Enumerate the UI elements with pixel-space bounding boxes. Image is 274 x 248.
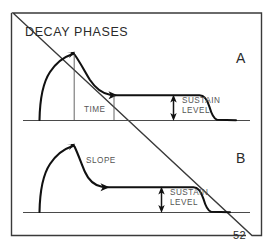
decay-phases-figure: DECAY PHASES A TIME SUSTAIN LEVEL B	[0, 0, 274, 248]
panel-b-envelope-curve	[40, 146, 231, 213]
panel-a-sustain-label-line1: SUSTAIN	[182, 96, 220, 105]
panel-b-slope-label: SLOPE	[86, 156, 116, 165]
figure-title: DECAY PHASES	[25, 25, 128, 39]
page-number: 52	[233, 229, 246, 241]
panel-label-b: B	[236, 150, 245, 166]
panel-label-a: A	[236, 50, 246, 66]
figure-page: DECAY PHASES A TIME SUSTAIN LEVEL B	[0, 0, 274, 248]
panel-a-sustain-label-line2: LEVEL	[182, 106, 210, 115]
panel-b-sustain-label-line1: SUSTAIN	[170, 188, 208, 197]
figure-frame	[12, 13, 262, 236]
panel-b-sustain-label-line2: LEVEL	[170, 198, 198, 207]
panel-a-time-label: TIME	[84, 105, 106, 114]
